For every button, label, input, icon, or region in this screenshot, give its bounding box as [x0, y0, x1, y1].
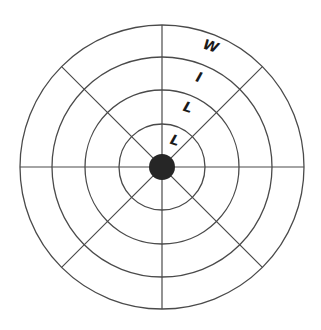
center-hub — [149, 154, 175, 180]
wheel-diagram — [0, 0, 321, 330]
